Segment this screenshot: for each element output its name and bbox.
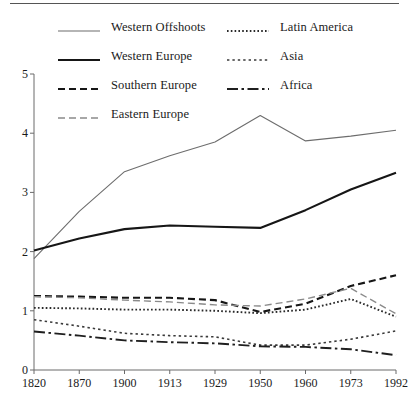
series-line	[34, 332, 396, 356]
x-axis-tick-label: 1870	[58, 377, 100, 389]
chart-figure: Western OffshootsWestern EuropeSouthern …	[0, 0, 409, 404]
y-axis-tick-label: 1	[8, 305, 28, 317]
y-axis-tick-label: 4	[8, 127, 28, 139]
y-axis-tick-label: 2	[8, 246, 28, 258]
y-axis-tick-label: 0	[8, 364, 28, 376]
x-axis-tick-label: 1913	[149, 377, 191, 389]
series-line	[34, 173, 396, 251]
x-axis-tick-label: 1960	[285, 377, 327, 389]
x-axis-tick-label: 1950	[239, 377, 281, 389]
chart-plot-area	[0, 0, 409, 404]
x-axis-tick-label: 1973	[330, 377, 372, 389]
x-axis-tick-label: 1992	[375, 377, 409, 389]
series-line	[34, 320, 396, 345]
x-axis-tick-label: 1900	[104, 377, 146, 389]
series-line	[34, 275, 396, 312]
chart-series	[34, 115, 396, 355]
chart-axes	[30, 74, 396, 374]
x-axis-tick-label: 1820	[13, 377, 55, 389]
y-axis-tick-label: 3	[8, 186, 28, 198]
x-axis-tick-label: 1929	[194, 377, 236, 389]
series-line	[34, 299, 396, 317]
y-axis-tick-label: 5	[8, 68, 28, 80]
